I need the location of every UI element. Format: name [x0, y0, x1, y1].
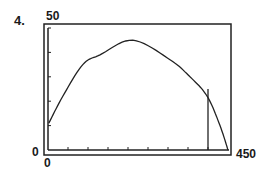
plotted-curve	[49, 40, 228, 150]
axis-ticks	[48, 28, 208, 150]
graph-window	[0, 0, 271, 175]
